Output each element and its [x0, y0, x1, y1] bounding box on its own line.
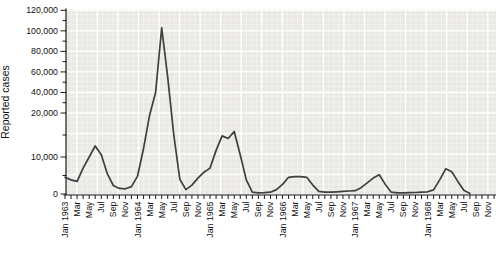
y-axis: 010,00020,00040,00060,00080,000100,00012… [26, 5, 66, 199]
y-axis-title: Reported cases [0, 65, 11, 139]
y-tick-label: 40,000 [31, 87, 58, 97]
x-tick-label: Mar [362, 201, 372, 216]
x-tick-label: Nov [410, 201, 420, 217]
x-tick-label: Jul [459, 201, 469, 212]
x-tick-label: Mar [435, 201, 445, 216]
x-tick-label: May [374, 201, 384, 218]
x-tick-label: Nov [338, 201, 348, 217]
x-axis: Jan 1963MarMayJulSepNovJan 1964MarMayJul… [60, 195, 494, 238]
x-tick-label: Jan 1964 [133, 201, 143, 237]
reported-cases-line-chart: 010,00020,00040,00060,00080,000100,00012… [0, 0, 504, 260]
x-tick-label: Sep [471, 201, 481, 217]
y-tick-label: 0 [53, 189, 58, 199]
x-tick-label: Nov [120, 201, 130, 217]
x-tick-label: Jul [386, 201, 396, 212]
x-tick-label: Jan 1965 [205, 201, 215, 237]
x-tick-label: Jan 1963 [60, 201, 70, 237]
x-tick-label: May [447, 201, 457, 218]
y-tick-label: 10,000 [31, 152, 58, 162]
x-tick-label: Jul [241, 201, 251, 212]
chart-figure: 010,00020,00040,00060,00080,000100,00012… [0, 0, 504, 260]
y-tick-label: 20,000 [31, 108, 58, 118]
y-tick-label: 80,000 [31, 46, 58, 56]
x-tick-label: Sep [253, 201, 263, 217]
x-tick-label: Nov [483, 201, 493, 217]
x-tick-label: Sep [181, 201, 191, 217]
x-tick-label: Mar [290, 201, 300, 216]
y-tick-label: 60,000 [31, 67, 58, 77]
x-tick-label: Nov [265, 201, 275, 217]
x-tick-label: Sep [326, 201, 336, 217]
x-tick-label: Jan 1967 [350, 201, 360, 237]
x-tick-label: Jul [96, 201, 106, 212]
x-tick-label: Nov [193, 201, 203, 217]
y-tick-label: 100,000 [26, 26, 58, 36]
x-tick-label: Sep [398, 201, 408, 217]
x-tick-label: Mar [72, 201, 82, 216]
x-tick-label: May [302, 201, 312, 218]
x-tick-label: May [229, 201, 239, 218]
x-tick-label: Jan 1966 [278, 201, 288, 237]
x-tick-label: Jul [169, 201, 179, 212]
x-tick-label: May [84, 201, 94, 218]
x-tick-label: Mar [217, 201, 227, 216]
x-tick-label: Mar [145, 201, 155, 216]
x-tick-label: Jan 1968 [423, 201, 433, 237]
x-tick-label: May [157, 201, 167, 218]
x-tick-label: Sep [108, 201, 118, 217]
y-tick-label: 120,000 [26, 5, 58, 15]
x-tick-label: Jul [314, 201, 324, 212]
